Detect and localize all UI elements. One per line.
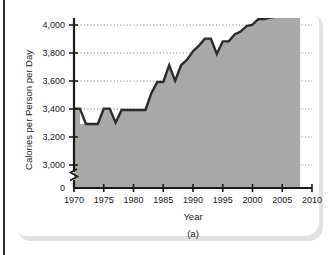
x-tick-label: 1995: [213, 195, 233, 205]
x-tick-label: 1985: [153, 195, 173, 205]
y-axis-title: Calories per Person per Day: [23, 50, 34, 170]
y-axis-zero-label: 0: [60, 183, 65, 193]
x-axis-title: Year: [183, 211, 202, 222]
y-tick-label: 4,000: [42, 20, 65, 30]
x-tick-label: 2005: [272, 195, 292, 205]
area-fill: [74, 12, 300, 187]
chart-container: Calories per Person per Day 4,000 3,800 …: [0, 0, 329, 255]
x-tick-label: 1975: [94, 195, 114, 205]
x-tick-labels: 1970 1975 1980 1985 1990 1995 2000 2005 …: [64, 195, 322, 205]
y-tick-labels: 4,000 3,800 3,600 3,400 3,200 3,000 0: [42, 20, 65, 193]
x-tick-label: 2000: [242, 195, 262, 205]
page-root: Calories per Person per Day 4,000 3,800 …: [0, 0, 329, 255]
y-tick-label: 3,000: [42, 160, 65, 170]
x-tick-label: 2010: [302, 195, 322, 205]
y-tick-label: 3,200: [42, 132, 65, 142]
x-tick-label: 1970: [64, 195, 84, 205]
area-series: [74, 12, 300, 187]
x-tick-label: 1980: [123, 195, 143, 205]
y-tick-label: 3,600: [42, 76, 65, 86]
x-tick-label: 1990: [183, 195, 203, 205]
calories-area-chart: Calories per Person per Day 4,000 3,800 …: [0, 0, 329, 255]
figure-caption: (a): [187, 228, 199, 239]
y-tick-label: 3,800: [42, 48, 65, 58]
y-tick-label: 3,400: [42, 104, 65, 114]
